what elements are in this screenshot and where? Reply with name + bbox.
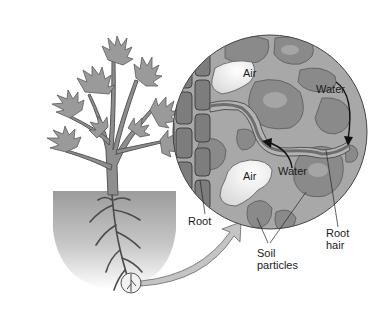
label-soil-line1: Soil (257, 247, 275, 259)
label-water-bottom: Water (278, 165, 307, 177)
magnified-view (166, 35, 367, 232)
label-air-bottom: Air (243, 170, 257, 182)
label-root: Root (188, 215, 211, 227)
soil-region (53, 191, 176, 290)
label-root-hair-line2: hair (326, 239, 345, 251)
label-air-top: Air (243, 67, 257, 79)
label-soil-line2: particles (257, 259, 298, 271)
label-root-hair-line1: Root (326, 227, 349, 239)
label-water-right: Water (316, 83, 345, 95)
root-soil-diagram: Air Air Water Water Root Root hair Soil … (0, 0, 389, 309)
